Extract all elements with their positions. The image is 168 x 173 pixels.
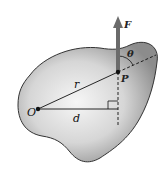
label-radius: r xyxy=(74,78,80,91)
label-origin: O xyxy=(27,106,36,119)
point-p-dot xyxy=(116,70,120,74)
rigid-body xyxy=(18,42,157,162)
force-arrow-shaft xyxy=(116,26,120,72)
label-force: F xyxy=(123,19,132,30)
label-angle: θ xyxy=(127,48,134,59)
force-arrow-head xyxy=(113,16,123,28)
origin-o-dot xyxy=(36,107,40,111)
torque-diagram: F θ P r O d xyxy=(0,0,168,173)
label-point-p: P xyxy=(120,73,129,84)
label-lever-arm: d xyxy=(73,112,80,125)
